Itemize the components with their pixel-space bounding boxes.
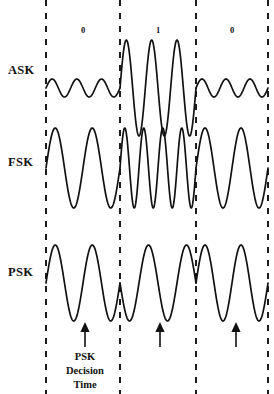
decision-time-arrow-0 [80, 322, 89, 347]
caption-line-1: Decision [66, 365, 104, 376]
wave-fsk-segment-2 [196, 128, 268, 208]
waveform-row-ask: ASK [8, 40, 268, 136]
decision-time-arrow-2 [231, 322, 240, 347]
arrow-head-0 [80, 322, 89, 332]
waveform-row-psk: PSK [8, 245, 268, 321]
row-label-psk: PSK [8, 265, 33, 279]
wave-ask-segment-1 [120, 40, 196, 136]
modulation-figure: 010ASKFSKPSKPSKDecisionTime [0, 0, 274, 394]
bit-label-1: 1 [156, 25, 160, 35]
row-label-ask: ASK [8, 63, 35, 77]
caption-line-2: Time [73, 379, 96, 390]
arrow-head-2 [231, 322, 240, 332]
arrow-head-1 [155, 322, 164, 332]
caption-line-0: PSK [75, 351, 96, 362]
wave-ask-segment-2 [196, 79, 268, 97]
wave-ask-segment-0 [46, 79, 120, 97]
wave-fsk-segment-0 [46, 128, 120, 208]
decision-time-arrow-1 [155, 322, 164, 347]
bit-label-0: 0 [81, 25, 85, 35]
bit-label-2: 0 [230, 25, 234, 35]
wave-fsk-segment-1 [120, 128, 196, 208]
row-label-fsk: FSK [8, 155, 33, 169]
waveform-row-fsk: FSK [8, 128, 268, 208]
wave-psk-segment-2 [196, 245, 268, 321]
waveform-canvas: 010ASKFSKPSKPSKDecisionTime [0, 0, 274, 394]
wave-psk-segment-1 [120, 245, 196, 321]
wave-psk-segment-0 [46, 245, 120, 321]
